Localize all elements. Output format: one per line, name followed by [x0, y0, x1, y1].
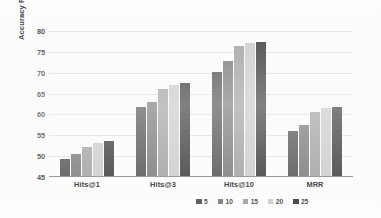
bar: [93, 143, 103, 177]
bar-group: [60, 31, 114, 177]
plot-area: [49, 31, 353, 177]
bar: [180, 83, 190, 177]
bar: [158, 89, 168, 177]
legend-label: 5: [204, 198, 208, 205]
bar: [147, 102, 157, 177]
bar: [223, 61, 233, 177]
y-axis-tick-label: 70: [23, 69, 45, 78]
bar: [169, 85, 179, 177]
x-axis-label-3: MRR: [277, 180, 353, 192]
bar: [234, 46, 244, 177]
x-axis-labels: Hits@1Hits@3Hits@10MRR: [49, 180, 353, 192]
x-axis-label-1: Hits@3: [125, 180, 201, 192]
bar: [299, 125, 309, 177]
bar: [71, 154, 81, 177]
bar: [212, 72, 222, 177]
bar-groups: [49, 31, 353, 177]
legend-swatch-icon: [293, 199, 299, 205]
bar: [332, 107, 342, 177]
y-axis-tick-label: 45: [23, 173, 45, 182]
bar: [136, 107, 146, 177]
bar-group: [288, 31, 342, 177]
bar-group: [136, 31, 190, 177]
legend-swatch-icon: [218, 199, 224, 205]
bar-chart: Accuracy Rate(%) 4550556065707580 Hits@1…: [0, 0, 381, 218]
chart-legend: 510152025: [196, 196, 358, 207]
y-axis-tick-label: 65: [23, 90, 45, 99]
y-axis-tick-label: 60: [23, 110, 45, 119]
legend-swatch-icon: [196, 199, 202, 205]
bar: [60, 159, 70, 177]
legend-item-15[interactable]: 15: [243, 198, 258, 205]
bar-group: [212, 31, 266, 177]
x-axis-label-2: Hits@10: [201, 180, 277, 192]
legend-item-25[interactable]: 25: [293, 198, 308, 205]
bar: [104, 141, 114, 177]
y-axis-tick-label: 55: [23, 131, 45, 140]
legend-swatch-icon: [268, 199, 274, 205]
bar: [310, 112, 320, 177]
legend-item-5[interactable]: 5: [196, 198, 208, 205]
bar: [288, 131, 298, 177]
bar: [256, 42, 266, 177]
bar: [245, 43, 255, 177]
y-axis-tick-label: 50: [23, 152, 45, 161]
bar: [82, 147, 92, 177]
y-axis-title: Accuracy Rate(%): [17, 0, 29, 57]
x-axis-label-0: Hits@1: [49, 180, 125, 192]
legend-item-20[interactable]: 20: [268, 198, 283, 205]
legend-label: 25: [301, 198, 308, 205]
x-axis-line: [49, 176, 353, 177]
legend-label: 15: [251, 198, 258, 205]
legend-label: 20: [276, 198, 283, 205]
bar: [321, 108, 331, 177]
legend-item-10[interactable]: 10: [218, 198, 233, 205]
legend-label: 10: [226, 198, 233, 205]
legend-swatch-icon: [243, 199, 249, 205]
